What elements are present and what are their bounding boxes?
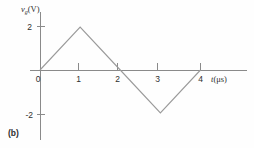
x-tick-label-3: 3 bbox=[155, 74, 160, 84]
x-axis-label: t(μs) bbox=[211, 74, 227, 84]
waveform-chart: 0 1 2 3 4 2 -2 vg(V) t(μs) (b) bbox=[0, 0, 254, 148]
y-tick-label-neg2: -2 bbox=[25, 110, 33, 120]
y-tick-label-2: 2 bbox=[27, 22, 32, 32]
x-tick-label-2: 2 bbox=[115, 74, 120, 84]
x-axis-label-unit: (μs) bbox=[213, 74, 227, 84]
figure-panel: 0 1 2 3 4 2 -2 vg(V) t(μs) (b) bbox=[0, 0, 254, 148]
x-tick-label-1: 1 bbox=[76, 74, 81, 84]
x-tick-label-4: 4 bbox=[198, 74, 203, 84]
y-axis-label: vg(V) bbox=[21, 4, 40, 15]
x-tick-label-0: 0 bbox=[36, 74, 41, 84]
panel-label: (b) bbox=[8, 128, 19, 138]
y-axis-label-unit: (V) bbox=[28, 4, 40, 14]
